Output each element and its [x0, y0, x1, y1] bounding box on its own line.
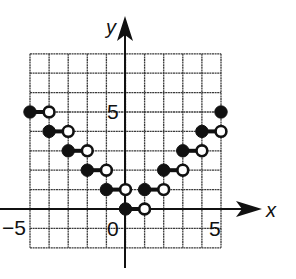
step-segment — [81, 164, 112, 176]
open-dot-icon — [139, 204, 150, 215]
open-dot-icon — [82, 145, 93, 156]
x-axis-label: x — [265, 199, 277, 221]
closed-dot-icon — [177, 145, 189, 157]
y-axis-label: y — [104, 16, 117, 38]
closed-dot-icon — [119, 203, 131, 215]
closed-dot-icon — [138, 183, 150, 195]
open-dot-icon — [216, 126, 227, 137]
open-dot-icon — [101, 165, 112, 176]
closed-dot-icon — [24, 106, 36, 118]
open-dot-icon — [177, 165, 188, 176]
step-segment — [119, 203, 150, 215]
x-tick-label-0: 0 — [107, 217, 119, 240]
step-segment — [158, 164, 189, 176]
closed-dot-icon — [196, 125, 208, 137]
x-tick-label-neg5: −5 — [2, 216, 26, 239]
closed-dot-icon — [81, 164, 93, 176]
step-segment — [177, 145, 208, 157]
step-segment — [24, 106, 55, 118]
closed-dot-icon — [158, 164, 170, 176]
closed-dot-icon — [215, 106, 227, 118]
step-segment — [100, 183, 131, 195]
closed-dot-icon — [43, 125, 55, 137]
open-dot-icon — [120, 184, 131, 195]
open-dot-icon — [197, 145, 208, 156]
closed-dot-icon — [100, 183, 112, 195]
step-segment — [138, 183, 169, 195]
step-segment — [43, 125, 74, 137]
step-segment — [196, 125, 227, 137]
x-tick-label-5: 5 — [209, 217, 221, 240]
y-tick-label-5: 5 — [107, 100, 119, 123]
step-segment — [62, 145, 93, 157]
open-dot-icon — [63, 126, 74, 137]
open-dot-icon — [158, 184, 169, 195]
open-dot-icon — [44, 107, 55, 118]
closed-dot-icon — [62, 145, 74, 157]
step-function-graph: x y −5 0 5 5 — [0, 0, 296, 279]
